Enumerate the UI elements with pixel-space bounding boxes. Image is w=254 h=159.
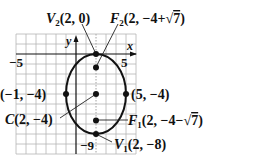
x-tick-label-neg5: −5: [9, 55, 23, 70]
point-f1: [93, 118, 99, 124]
point-left-vertex: [63, 91, 69, 97]
y-axis-label: y: [64, 34, 72, 48]
point-f2: [93, 65, 99, 71]
label-right-vertex: (5, −4): [131, 87, 170, 103]
ellipse-figure: y x −5 5 −9 V2(2, 0) F2(2, −4+√7) (−1, −…: [0, 0, 254, 159]
label-center: C(2, −4): [5, 112, 53, 128]
label-v2: V2(2, 0): [46, 11, 91, 28]
label-v1: V1(2, −8): [114, 137, 166, 154]
label-f2: F2(2, −4+√7): [109, 11, 185, 28]
x-axis-label: x: [126, 39, 133, 53]
point-v1: [93, 131, 99, 137]
label-f1: F1(2, −4−√7): [127, 113, 203, 130]
point-right-vertex: [123, 91, 129, 97]
y-tick-label-neg9: −9: [80, 138, 94, 153]
point-v2: [93, 51, 99, 57]
label-left-vertex: (−1, −4): [0, 87, 47, 103]
y-axis-arrow-icon: [74, 35, 79, 42]
point-center: [93, 91, 99, 97]
x-tick-label-5: 5: [121, 55, 128, 70]
